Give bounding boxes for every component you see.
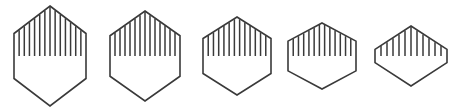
hexagon-series-svg [0, 0, 463, 111]
shapes-layer [14, 6, 447, 106]
figure-canvas [0, 0, 463, 111]
hexagon-2 [110, 11, 180, 101]
hexagon-1 [14, 6, 86, 106]
hexagon-4 [288, 23, 356, 89]
hexagon-5 [375, 26, 447, 86]
hexagon-3 [203, 17, 271, 95]
